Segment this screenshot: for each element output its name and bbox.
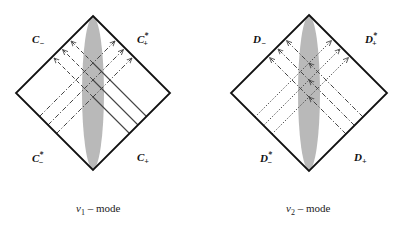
caption-v1-mode: v1 – mode <box>76 202 120 217</box>
ne-ray <box>255 41 332 118</box>
shaded-region <box>298 16 320 170</box>
label-c-plus-star: C*+ <box>137 32 148 48</box>
label-d-plus: D+ <box>354 152 367 166</box>
label-d-minus-star: D*− <box>260 151 272 167</box>
label-c-minus: C− <box>32 34 44 48</box>
label-d-plus-star: D*+ <box>365 32 377 48</box>
label-d-minus: D− <box>253 34 266 48</box>
nw-ray <box>287 41 364 118</box>
label-c-plus: C+ <box>137 152 149 166</box>
penrose-diagrams <box>0 0 400 230</box>
shaded-region <box>82 17 104 169</box>
caption-v2-mode: v2 – mode <box>286 202 330 217</box>
label-c-minus-star: C*− <box>32 151 43 167</box>
